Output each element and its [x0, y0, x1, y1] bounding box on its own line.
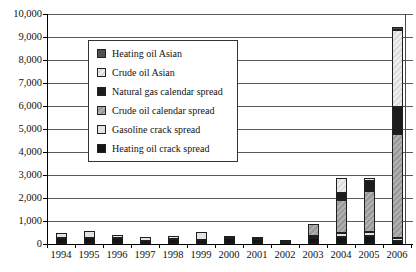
- bar-segment-gasoline-crack-spread-2006: [392, 238, 403, 240]
- legend-label-crude-oil-calendar-spread: Crude oil calendar spread: [112, 105, 214, 116]
- x-axis-label-1997: 1997: [131, 249, 159, 260]
- bar-segment-gasoline-crack-spread-2005: [364, 232, 375, 236]
- bar-segment-crude-oil-asian-2005: [364, 178, 375, 181]
- bar-2006: [392, 14, 403, 244]
- bar-segment-crude-oil-calendar-spread-2003: [308, 224, 319, 236]
- x-axis-label-2004: 2004: [327, 249, 355, 260]
- bar-segment-heating-oil-crack-spread-1995: [84, 238, 95, 244]
- x-axis-label-2001: 2001: [243, 249, 271, 260]
- bar-segment-crude-oil-asian-2004: [336, 178, 347, 194]
- x-axis-tick: [75, 245, 76, 248]
- y-axis-label: 1,000: [0, 216, 42, 226]
- x-axis-label-2002: 2002: [271, 249, 299, 260]
- legend-box: Heating oil AsianCrude oil AsianNatural …: [88, 40, 238, 162]
- y-axis-label: 4,000: [0, 147, 42, 157]
- x-axis-label-1995: 1995: [75, 249, 103, 260]
- legend-swatch-natural-gas-calendar-spread-icon: [97, 87, 106, 96]
- x-axis-tick: [159, 245, 160, 248]
- x-axis-label-2000: 2000: [215, 249, 243, 260]
- bar-2003: [308, 14, 319, 244]
- bar-segment-gasoline-crack-spread-2000: [224, 236, 235, 238]
- legend-swatch-crude-oil-asian-icon: [97, 68, 106, 77]
- bar-segment-gasoline-crack-spread-1994: [56, 233, 67, 238]
- bar-segment-gasoline-crack-spread-1998: [168, 236, 179, 239]
- x-axis-label-1998: 1998: [159, 249, 187, 260]
- plot-right-border: [405, 14, 406, 244]
- y-axis-line: [47, 14, 48, 245]
- x-axis-line: [47, 244, 413, 245]
- bar-segment-natural-gas-calendar-spread-2005: [364, 181, 375, 191]
- bar-segment-natural-gas-calendar-spread-2006: [392, 107, 403, 133]
- legend-swatch-heating-oil-asian-icon: [97, 49, 106, 58]
- bar-2004: [336, 14, 347, 244]
- x-axis-tick: [299, 245, 300, 248]
- x-axis-label-1996: 1996: [103, 249, 131, 260]
- bar-segment-gasoline-crack-spread-2004: [336, 233, 347, 237]
- bar-segment-gasoline-crack-spread-2003: [308, 236, 319, 238]
- x-axis-tick: [47, 245, 48, 248]
- legend-label-natural-gas-calendar-spread: Natural gas calendar spread: [112, 86, 223, 97]
- bar-segment-natural-gas-calendar-spread-2004: [336, 193, 347, 200]
- legend-label-crude-oil-asian: Crude oil Asian: [112, 67, 175, 78]
- y-axis-label: 3,000: [0, 170, 42, 180]
- bar-1994: [56, 14, 67, 244]
- x-axis-tick: [355, 245, 356, 248]
- x-axis-label-1999: 1999: [187, 249, 215, 260]
- bar-segment-gasoline-crack-spread-1999: [196, 232, 207, 240]
- bar-segment-crude-oil-asian-2006: [392, 30, 403, 107]
- x-axis-tick: [411, 245, 412, 248]
- x-axis-label-2006: 2006: [383, 249, 411, 260]
- y-axis-label: 0: [0, 239, 42, 249]
- y-axis-label: 7,000: [0, 78, 42, 88]
- bar-segment-gasoline-crack-spread-1995: [84, 231, 95, 239]
- bar-segment-heating-oil-crack-spread-2003: [308, 238, 319, 244]
- legend-swatch-gasoline-crack-spread-icon: [97, 125, 106, 134]
- y-axis-label: 2,000: [0, 193, 42, 203]
- legend-swatch-crude-oil-calendar-spread-icon: [97, 106, 106, 115]
- x-axis-tick: [383, 245, 384, 248]
- x-axis-tick: [131, 245, 132, 248]
- bar-segment-gasoline-crack-spread-1997: [140, 237, 151, 240]
- bar-segment-heating-oil-crack-spread-2005: [364, 236, 375, 244]
- y-axis-label: 8,000: [0, 55, 42, 65]
- legend-item-crude-oil-calendar-spread: Crude oil calendar spread: [97, 105, 237, 116]
- legend-item-crude-oil-asian: Crude oil Asian: [97, 67, 237, 78]
- y-axis-label: 5,000: [0, 124, 42, 134]
- legend-item-gasoline-crack-spread: Gasoline crack spread: [97, 124, 237, 135]
- bar-segment-crude-oil-calendar-spread-2006: [392, 134, 403, 239]
- legend-label-gasoline-crack-spread: Gasoline crack spread: [112, 124, 200, 135]
- x-axis-tick: [271, 245, 272, 248]
- y-axis-label: 9,000: [0, 32, 42, 42]
- bar-segment-gasoline-crack-spread-1996: [112, 235, 123, 238]
- legend-swatch-heating-oil-crack-spread-icon: [97, 144, 106, 153]
- bar-segment-crude-oil-calendar-spread-2004: [336, 200, 347, 233]
- legend-item-natural-gas-calendar-spread: Natural gas calendar spread: [97, 86, 237, 97]
- x-axis-tick: [187, 245, 188, 248]
- bar-segment-gasoline-crack-spread-2001: [252, 237, 263, 239]
- bar-segment-heating-oil-crack-spread-2002: [280, 242, 291, 244]
- bar-segment-crude-oil-calendar-spread-2005: [364, 191, 375, 231]
- bar-segment-heating-oil-crack-spread-2006: [392, 241, 403, 244]
- legend-label-heating-oil-crack-spread: Heating oil crack spread: [112, 143, 209, 154]
- bar-segment-heating-oil-crack-spread-2001: [252, 239, 263, 244]
- x-axis-label-2005: 2005: [355, 249, 383, 260]
- y-axis-label: 10,000: [0, 9, 42, 19]
- y-axis-label: 6,000: [0, 101, 42, 111]
- bar-segment-heating-oil-crack-spread-2004: [336, 237, 347, 244]
- legend-item-heating-oil-asian: Heating oil Asian: [97, 48, 237, 59]
- x-axis-tick: [243, 245, 244, 248]
- bar-2002: [280, 14, 291, 244]
- bar-segment-heating-oil-crack-spread-1997: [140, 241, 151, 244]
- x-axis-tick: [103, 245, 104, 248]
- bar-segment-heating-oil-crack-spread-1994: [56, 238, 67, 244]
- bar-segment-gasoline-crack-spread-2002: [280, 240, 291, 242]
- bar-segment-heating-oil-crack-spread-1996: [112, 238, 123, 244]
- legend-item-heating-oil-crack-spread: Heating oil crack spread: [97, 143, 237, 154]
- bar-segment-heating-oil-asian-2006: [392, 27, 403, 30]
- bar-segment-heating-oil-crack-spread-1998: [168, 239, 179, 244]
- bar-segment-heating-oil-crack-spread-2000: [224, 238, 235, 244]
- x-axis-label-1994: 1994: [47, 249, 75, 260]
- bar-2001: [252, 14, 263, 244]
- bar-segment-heating-oil-crack-spread-1999: [196, 240, 207, 244]
- legend-label-heating-oil-asian: Heating oil Asian: [112, 48, 182, 59]
